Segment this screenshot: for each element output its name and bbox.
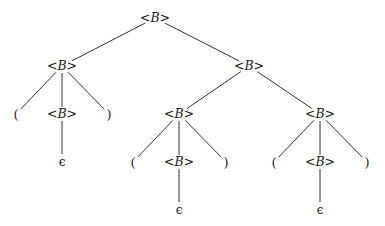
epsilon-leaf: ϵ [317,204,324,216]
epsilon-leaf: ϵ [176,204,183,216]
nonterminal-node: <B> [164,156,194,169]
nonterminal-label: B [174,154,183,169]
nonterminal-label: B [315,106,324,121]
nonterminal-label: B [174,106,183,121]
tree-edge [326,120,362,157]
close-paren-leaf: ) [106,108,111,121]
tree-edge [279,120,314,157]
nonterminal-node: <B> [47,108,77,121]
tree-edge [257,72,311,109]
nonterminal-node: <B> [47,60,77,73]
nonterminal-node: <B> [164,108,194,121]
nonterminal-node: <B> [140,12,170,25]
tree-edge [21,72,56,109]
tree-edge [72,23,146,61]
nonterminal-label: B [244,58,253,73]
open-paren-leaf: ( [271,156,276,169]
nonterminal-node: <B> [305,108,335,121]
close-paren-leaf: ) [364,156,369,169]
nonterminal-label: B [57,106,66,121]
tree-edge [187,72,241,109]
close-paren-leaf: ) [223,156,228,169]
nonterminal-node: <B> [305,156,335,169]
epsilon-leaf: ϵ [59,156,66,168]
open-paren-leaf: ( [13,108,18,121]
parse-tree-diagram: <B><B><B>(<B>)ϵ<B><B>(<B>)ϵ(<B>)ϵ [0,0,385,226]
nonterminal-node: <B> [234,60,264,73]
nonterminal-label: B [315,154,324,169]
tree-edge [68,72,104,109]
open-paren-leaf: ( [130,156,135,169]
nonterminal-label: B [57,58,66,73]
nonterminal-label: B [150,10,159,25]
tree-edge [165,23,239,61]
tree-edge [138,120,173,157]
tree-edge [185,120,221,157]
